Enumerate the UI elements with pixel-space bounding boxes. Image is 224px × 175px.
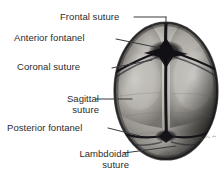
label-lambdoidal-suture-line2: suture bbox=[55, 159, 129, 170]
label-lambdoidal-suture: Lambdoidal suture bbox=[55, 148, 129, 170]
figure-container: Frontal suture Anterior fontanel Coronal… bbox=[0, 0, 224, 175]
label-lambdoidal-suture-line1: Lambdoidal bbox=[55, 148, 129, 159]
label-anterior-fontanel: Anterior fontanel bbox=[14, 32, 85, 43]
label-posterior-fontanel: Posterior fontanel bbox=[7, 122, 82, 133]
label-coronal-suture: Coronal suture bbox=[17, 61, 80, 72]
label-sagittal-suture-line2: suture bbox=[37, 104, 99, 115]
label-sagittal-suture-line1: Sagittal bbox=[37, 93, 99, 104]
label-sagittal-suture: Sagittal suture bbox=[37, 93, 99, 115]
label-frontal-suture: Frontal suture bbox=[60, 11, 119, 22]
skull-body bbox=[113, 22, 219, 161]
